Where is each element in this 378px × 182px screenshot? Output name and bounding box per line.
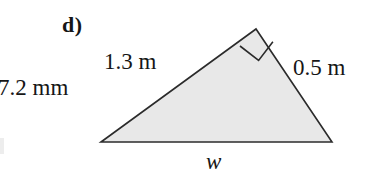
- side-label-left: 1.3 m: [104, 50, 156, 73]
- side-label-right: 0.5 m: [293, 56, 345, 79]
- side-label-base: w: [206, 150, 221, 173]
- neighbor-measurement-label: 7.2 mm: [0, 76, 68, 99]
- figure-page: d) 7.2 mm 1.3 m 0.5 m w: [0, 0, 378, 182]
- part-label: d): [62, 14, 83, 36]
- triangle-shape: [101, 29, 332, 142]
